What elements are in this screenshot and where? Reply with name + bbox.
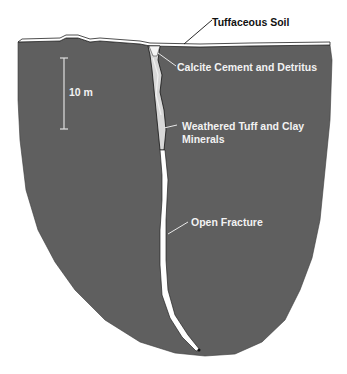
scale-bar-label: 10 m [69, 86, 93, 98]
label-tuffaceous-soil: Tuffaceous Soil [212, 16, 289, 28]
cross-section-diagram [0, 0, 347, 374]
label-calcite-cement: Calcite Cement and Detritus [177, 61, 317, 73]
label-weathered-tuff-line1: Weathered Tuff and Clay [182, 120, 304, 132]
label-weathered-tuff-line2: Minerals [182, 133, 225, 145]
soil-leader-line [184, 20, 212, 44]
rock-body [18, 38, 332, 356]
label-open-fracture: Open Fracture [191, 216, 263, 228]
